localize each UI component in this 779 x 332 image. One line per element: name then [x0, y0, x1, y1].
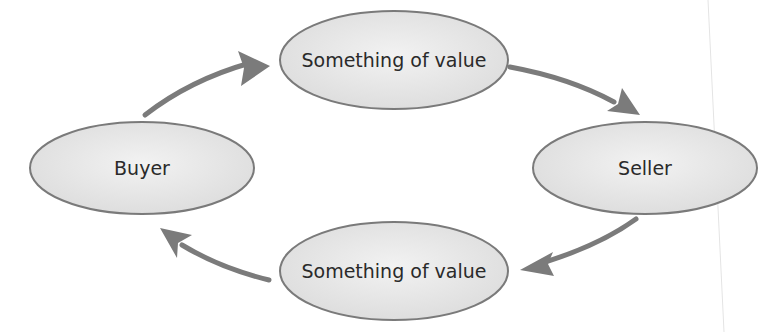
- arrow-seller-to-bottom: [520, 219, 636, 276]
- node-label: Seller: [618, 157, 672, 179]
- node-bottom-something-of-value: Something of value: [280, 222, 508, 320]
- arrow-bottom-to-buyer: [160, 228, 269, 280]
- node-seller: Seller: [533, 122, 757, 214]
- arrow-top-to-seller: [510, 67, 640, 115]
- node-top-something-of-value: Something of value: [280, 11, 508, 109]
- node-buyer: Buyer: [30, 122, 254, 214]
- node-label: Buyer: [114, 157, 170, 179]
- node-label: Something of value: [301, 49, 486, 71]
- node-label: Something of value: [301, 260, 486, 282]
- arrow-buyer-to-top: [145, 51, 270, 115]
- exchange-diagram: Something of value Buyer Seller Somethin…: [0, 0, 779, 332]
